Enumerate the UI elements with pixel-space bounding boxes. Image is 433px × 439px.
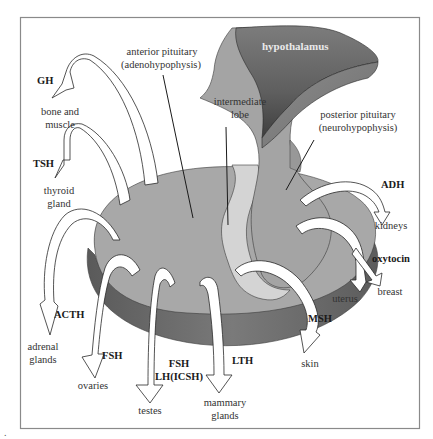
tsh-target-label: thyroid (44, 185, 75, 196)
tsh-labels: TSH thyroid gland (33, 158, 75, 209)
svg-text:anterior pituitary: anterior pituitary (127, 46, 199, 57)
svg-text:lobe: lobe (231, 109, 249, 120)
kidneys-target-label: kidneys (375, 220, 408, 231)
hypothalamus-label: hypothalamus (262, 40, 329, 52)
ovaries-target-label: ovaries (78, 380, 108, 391)
svg-text:gland: gland (47, 198, 71, 209)
lth-hormone-label: LTH (232, 355, 253, 366)
gh-target-label: bone and (41, 106, 80, 117)
svg-text:glands: glands (211, 410, 238, 421)
fsh-lh-hormone-label-1: FSH (169, 358, 189, 369)
adh-hormone-label: ADH (381, 179, 404, 190)
testes-target-label: testes (138, 405, 161, 416)
gh-labels: GH bone and muscle (37, 75, 80, 130)
msh-hormone-label: MSH (308, 313, 332, 324)
svg-text:muscle: muscle (45, 119, 75, 130)
fsh-lh-hormone-label-2: LH(ICSH) (155, 371, 203, 383)
mammary-target-label: mammary (204, 397, 247, 408)
breast-target-label: breast (377, 286, 402, 297)
acth-hormone-label: ACTH (54, 309, 84, 320)
svg-text:(neurohypophysis): (neurohypophysis) (319, 122, 398, 134)
tsh-hormone-label: TSH (33, 158, 54, 169)
svg-text:glands: glands (29, 354, 56, 365)
acth-labels: ACTH adrenal glands (28, 309, 85, 365)
corner-mark: . (4, 427, 7, 438)
uterus-target-label: uterus (332, 293, 358, 304)
skin-target-label: skin (301, 358, 319, 369)
svg-text:intermediate: intermediate (214, 96, 267, 107)
gh-hormone-label: GH (37, 75, 53, 86)
fsh-hormone-label: FSH (102, 350, 122, 361)
svg-text:(adenohypophysis): (adenohypophysis) (121, 59, 201, 71)
acth-target-label: adrenal (28, 341, 59, 352)
svg-text:posterior pituitary: posterior pituitary (320, 109, 396, 120)
posterior-lobe-bulge (290, 140, 301, 172)
lth-labels: LTH mammary glands (204, 355, 254, 421)
pituitary-diagram: . hypothalamus anterior pituitary (adeno… (0, 0, 433, 439)
oxytocin-hormone-label: oxytocin (372, 253, 410, 264)
